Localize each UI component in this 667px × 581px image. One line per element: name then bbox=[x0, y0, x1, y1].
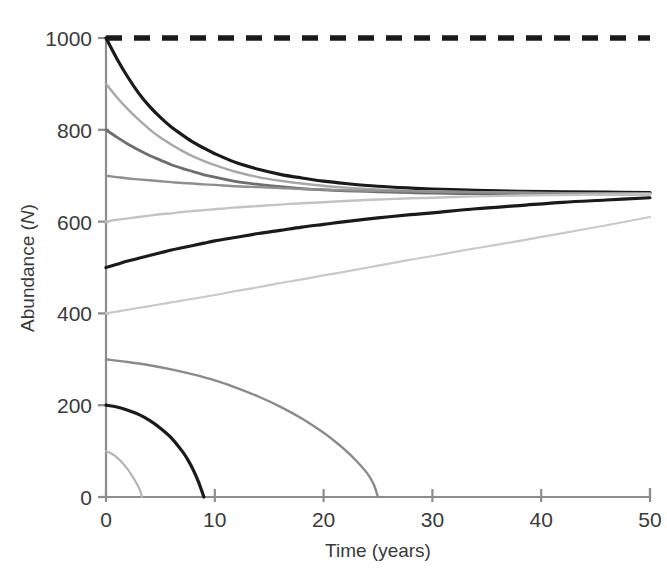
x-tick-label-20: 20 bbox=[312, 508, 335, 531]
y-tick-label-800: 800 bbox=[57, 119, 92, 142]
y-tick-label-600: 600 bbox=[57, 211, 92, 234]
x-axis-title: Time (years) bbox=[325, 540, 431, 561]
y-axis-title-symbol: N bbox=[17, 210, 38, 224]
y-tick-label-200: 200 bbox=[57, 394, 92, 417]
y-tick-label-400: 400 bbox=[57, 302, 92, 325]
y-axis-title: Abundance (N) bbox=[17, 204, 38, 332]
x-tick-label-40: 40 bbox=[530, 508, 553, 531]
y-tick-label-0: 0 bbox=[80, 486, 92, 509]
y-axis-title-group: Abundance (N) bbox=[17, 204, 38, 332]
x-tick-label-30: 30 bbox=[421, 508, 444, 531]
x-tick-label-50: 50 bbox=[638, 508, 661, 531]
y-tick-label-1000: 1000 bbox=[45, 27, 92, 50]
x-tick-label-0: 0 bbox=[100, 508, 112, 531]
chart-background bbox=[0, 0, 667, 581]
chart-figure: 0200400600800100001020304050 Time (years… bbox=[0, 0, 667, 581]
y-axis-title-prefix: Abundance ( bbox=[17, 223, 38, 331]
x-tick-label-10: 10 bbox=[203, 508, 226, 531]
abundance-time-line-chart: 0200400600800100001020304050 Time (years… bbox=[0, 0, 667, 581]
y-axis-title-suffix: ) bbox=[17, 204, 38, 210]
